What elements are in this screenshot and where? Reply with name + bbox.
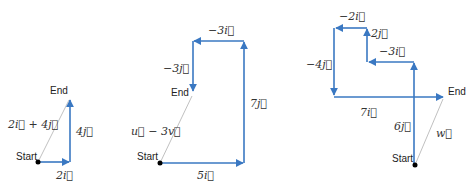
vector-label-neg-3j: −3j⃗ bbox=[163, 63, 189, 74]
vector-label-neg-2i: −2i⃗ bbox=[339, 11, 365, 22]
start-point bbox=[413, 163, 418, 168]
end-label: End bbox=[50, 86, 68, 96]
resultant-label: u⃗ − 3v⃗ bbox=[131, 126, 181, 137]
vector-diagram-svg bbox=[0, 0, 476, 193]
vector-label-neg-3i: −3i⃗ bbox=[208, 25, 234, 36]
end-label: End bbox=[448, 87, 466, 97]
resultant-vector bbox=[38, 100, 69, 162]
start-point bbox=[158, 161, 163, 166]
start-label: Start bbox=[392, 154, 413, 164]
start-label: Start bbox=[16, 152, 37, 162]
vector-label-neg-3i: −3i⃗ bbox=[379, 46, 405, 57]
vector-label-5i: 5i⃗ bbox=[197, 170, 214, 181]
vector-label-7j: 7j⃗ bbox=[250, 98, 267, 109]
diagram-2 bbox=[158, 41, 245, 166]
resultant-label: 2i⃗ + 4j⃗ bbox=[8, 119, 58, 130]
diagram-1 bbox=[36, 100, 71, 165]
start-label: Start bbox=[137, 152, 158, 162]
end-label: End bbox=[171, 88, 189, 98]
vector-diagrams: End Start 2i⃗ + 4j⃗ 4j⃗ 2i⃗ End Start u⃗… bbox=[0, 0, 476, 193]
vector-label-2i: 2i⃗ bbox=[56, 170, 73, 181]
vector-label-neg-4j: −4j⃗ bbox=[306, 59, 332, 70]
vector-label-7i: 7i⃗ bbox=[360, 107, 377, 118]
resultant-label: w⃗ bbox=[436, 128, 452, 139]
vector-label-4j: 4j⃗ bbox=[76, 126, 93, 137]
vector-label-6j: 6j⃗ bbox=[394, 121, 411, 132]
vector-label-2j: 2j⃗ bbox=[371, 28, 388, 39]
